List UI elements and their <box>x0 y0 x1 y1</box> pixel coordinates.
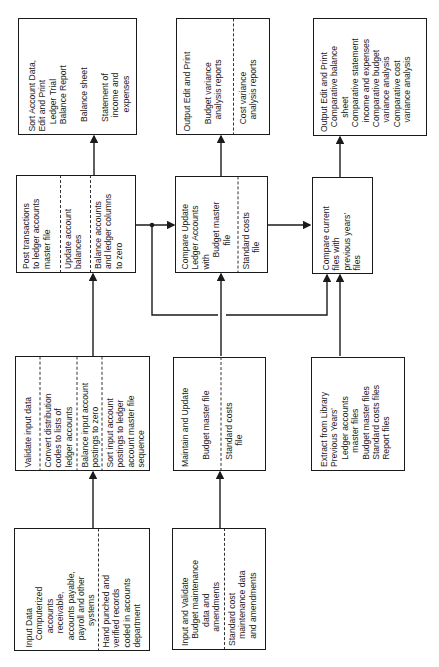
box-section: Input Data Computerized accounts receiva… <box>14 528 98 651</box>
box-section: Compare Update Ledger Accounts with Budg… <box>175 176 237 273</box>
box-section: Compare current files with previous year… <box>312 177 364 274</box>
box-maintain-update: Maintain and Update Budget master file S… <box>173 357 266 471</box>
box-section: Sort Account Data, Edit and Print Ledger… <box>18 18 132 135</box>
box-output-edit-comparative: Output Edit and Print Comparative balanc… <box>313 18 427 136</box>
box-section: Balance accounts and ledger columns to z… <box>90 175 126 273</box>
box-sort-account-data: Sort Account Data, Edit and Print Ledger… <box>18 18 137 135</box>
box-compare-current: Compare current files with previous year… <box>312 177 373 274</box>
box-section: Sort input account postings to ledger ac… <box>101 356 148 471</box>
box-section: Balance input account postings to zero <box>76 356 101 471</box>
box-section: Convert distribution codes to lists of l… <box>39 356 76 471</box>
box-section: Update account balances <box>60 175 90 273</box>
box-section: Input and Validate Budget maintenance da… <box>172 528 224 650</box>
box-section: Standard cost maintenance data and amend… <box>224 528 260 650</box>
box-section: Post transactions to ledger accounts mas… <box>16 175 60 273</box>
box-section: Hand punched and verified records coded … <box>98 528 145 651</box>
box-section: Output Edit and Print Comparative balanc… <box>313 18 415 136</box>
box-extract-library: Extract from Library Previous Years' Led… <box>311 357 405 471</box>
box-section: Standard costs file <box>237 176 263 273</box>
box-section: Validate input data <box>15 356 39 471</box>
box-section: Cost variance analysis reports <box>233 18 261 135</box>
box-section: Maintain and Update Budget master file <box>173 357 220 471</box>
box-output-edit-budget: Output Edit and Print Budget variance an… <box>176 18 270 135</box>
box-section: Extract from Library Previous Years' Led… <box>311 357 394 471</box>
box-input-data: Input Data Computerized accounts receiva… <box>14 528 150 651</box>
box-section: Output Edit and Print Budget variance an… <box>176 18 233 135</box>
box-compare-update: Compare Update Ledger Accounts with Budg… <box>175 176 268 273</box>
box-validate-input: Validate input data Convert distribution… <box>15 356 150 471</box>
box-input-validate: Input and Validate Budget maintenance da… <box>172 528 266 650</box>
box-post-transactions: Post transactions to ledger accounts mas… <box>16 175 136 273</box>
box-section: Standard costs file <box>220 357 246 471</box>
flowchart-canvas: Sort Account Data, Edit and Print Ledger… <box>0 0 439 667</box>
